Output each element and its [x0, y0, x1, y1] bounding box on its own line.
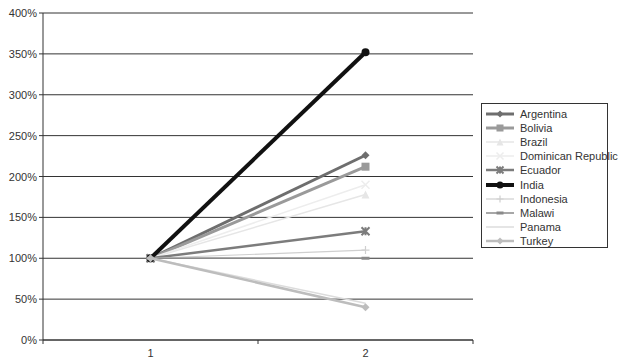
legend-label: Ecuador: [520, 164, 561, 176]
data-point-marker: [362, 48, 370, 56]
y-tick-label: 300%: [9, 89, 37, 101]
legend-swatch-icon: [484, 136, 516, 148]
legend-swatch-icon: [484, 207, 516, 219]
legend-item: Malawi: [484, 206, 607, 220]
data-point-marker: [497, 211, 504, 214]
legend-item: Turkey: [484, 234, 607, 248]
data-point-marker: [362, 257, 370, 260]
legend-label: Dominican Republic: [520, 150, 618, 162]
y-tick-label: 350%: [9, 48, 37, 60]
legend-swatch-icon: [484, 122, 516, 134]
x-axis: 12: [43, 340, 473, 359]
data-point-marker: [497, 237, 504, 244]
legend-label: Indonesia: [520, 193, 568, 205]
legend-swatch-icon: [484, 235, 516, 247]
data-point-marker: [362, 181, 370, 189]
legend-item: Ecuador: [484, 163, 607, 177]
y-tick-label: 100%: [9, 252, 37, 264]
legend-swatch-icon: [484, 221, 516, 233]
legend-swatch-icon: [484, 150, 516, 162]
legend-item: Bolivia: [484, 121, 607, 135]
legend-label: Panama: [520, 221, 561, 233]
series-india: [147, 48, 370, 262]
data-point-marker: [362, 190, 370, 198]
legend-item: Dominican Republic: [484, 149, 607, 163]
data-point-marker: [497, 181, 504, 188]
legend-item: Argentina: [484, 107, 607, 121]
x-tick-label: 2: [362, 347, 368, 359]
y-axis: 0%50%100%150%200%250%300%350%400%: [9, 7, 43, 346]
data-point-marker: [497, 125, 504, 132]
data-point-marker: [497, 111, 504, 118]
legend-swatch-icon: [484, 164, 516, 176]
legend-swatch-icon: [484, 179, 516, 191]
gridlines: [43, 13, 473, 340]
legend-label: Bolivia: [520, 122, 552, 134]
legend: ArgentinaBoliviaBrazilDominican Republic…: [481, 103, 608, 248]
data-point-marker: [362, 303, 370, 311]
data-point-marker: [497, 195, 504, 202]
data-point-marker: [362, 163, 370, 171]
series-lines: [147, 48, 370, 311]
data-point-marker: [362, 246, 370, 254]
y-tick-label: 250%: [9, 130, 37, 142]
legend-label: Turkey: [520, 235, 553, 247]
legend-item: India: [484, 177, 607, 191]
legend-label: Malawi: [520, 207, 554, 219]
series-bolivia: [147, 163, 370, 263]
y-tick-label: 150%: [9, 211, 37, 223]
series-turkey: [147, 254, 370, 311]
legend-label: Brazil: [520, 136, 548, 148]
legend-label: India: [520, 179, 544, 191]
y-tick-label: 50%: [15, 293, 37, 305]
legend-label: Argentina: [520, 108, 567, 120]
legend-swatch-icon: [484, 193, 516, 205]
legend-item: Panama: [484, 220, 607, 234]
legend-swatch-icon: [484, 108, 516, 120]
legend-item: Brazil: [484, 135, 607, 149]
legend-item: Indonesia: [484, 192, 607, 206]
x-tick-label: 1: [147, 347, 153, 359]
y-tick-label: 0%: [21, 334, 37, 346]
y-tick-label: 400%: [9, 7, 37, 19]
y-tick-label: 200%: [9, 171, 37, 183]
